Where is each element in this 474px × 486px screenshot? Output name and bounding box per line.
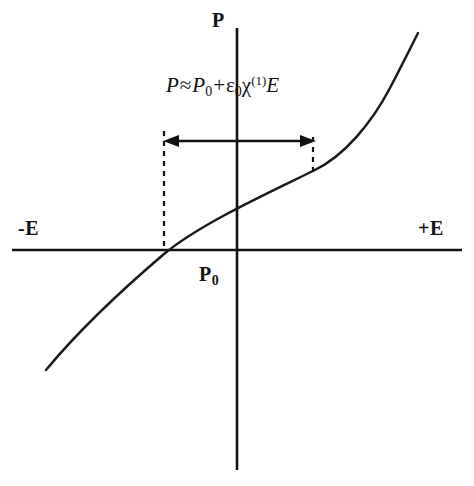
equation-plus-sign: + — [212, 73, 226, 97]
y-axis-label: P — [212, 10, 225, 30]
figure-canvas: P -E +E P0 P≈P0+ε0χ(1)E — [0, 0, 474, 486]
equation-epsilon: ε — [226, 73, 235, 97]
equation-chi: χ — [242, 73, 251, 97]
pe-curve-diagram — [0, 0, 474, 486]
x-axis-label-negative: -E — [18, 218, 39, 238]
origin-offset-base: P — [199, 263, 212, 285]
linear-approximation-equation: P≈P0+ε0χ(1)E — [166, 74, 279, 99]
equation-term1-base: P — [192, 73, 205, 97]
equation-chi-superscript: (1) — [251, 73, 266, 88]
arrowhead-left-icon — [163, 135, 179, 147]
equation-lhs: P — [166, 73, 179, 97]
arrowhead-right-icon — [300, 135, 316, 147]
equation-field: E — [266, 73, 279, 97]
equation-epsilon-subscript: 0 — [235, 84, 242, 99]
origin-offset-subscript: 0 — [212, 273, 220, 288]
origin-offset-label: P0 — [199, 264, 219, 288]
equation-approx-sign: ≈ — [179, 73, 193, 97]
x-axis-label-positive: +E — [418, 218, 444, 238]
